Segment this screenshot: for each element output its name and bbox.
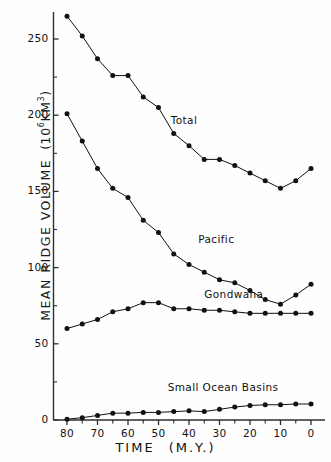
chart-series [65, 111, 314, 307]
series-data-point [80, 139, 85, 144]
chart-series [65, 300, 314, 331]
series-data-point [126, 195, 131, 200]
series-data-point [141, 218, 146, 223]
series-data-point [187, 262, 192, 267]
series-data-point [141, 300, 146, 305]
x-axis-tick-label: 30 [205, 427, 235, 439]
series-data-point [263, 402, 268, 407]
x-axis-title: TIME(M.Y.) [0, 440, 331, 455]
series-data-point [232, 163, 237, 168]
series-data-point [217, 308, 222, 313]
y-axis-unit-close: ) [38, 90, 53, 95]
series-data-point [263, 297, 268, 302]
series-data-point [293, 402, 298, 407]
series-data-point [80, 321, 85, 326]
chart-series [65, 402, 314, 422]
y-axis-tick-label: 200 [4, 108, 49, 120]
series-data-point [110, 411, 115, 416]
series-data-point [248, 171, 253, 176]
series-data-point [202, 409, 207, 414]
series-label-gondwana: Gondwana [204, 288, 263, 300]
y-axis-unit-exponent: 6 [37, 122, 46, 128]
series-data-point [95, 166, 100, 171]
series-data-point [65, 417, 70, 422]
series-label-total: Total [171, 114, 198, 126]
series-data-point [171, 131, 176, 136]
y-axis-tick-label: 100 [4, 261, 49, 273]
series-data-point [141, 94, 146, 99]
y-axis-tick-label: 250 [4, 32, 49, 44]
series-line [67, 16, 311, 188]
series-data-point [110, 73, 115, 78]
series-data-point [156, 300, 161, 305]
series-data-point [65, 326, 70, 331]
x-axis-tick-label: 0 [296, 427, 326, 439]
series-data-point [248, 311, 253, 316]
series-data-point [171, 251, 176, 256]
series-data-point [263, 311, 268, 316]
y-axis-unit-base: (10 [38, 127, 53, 150]
series-data-point [309, 282, 314, 287]
series-data-point [293, 311, 298, 316]
chart-axes [54, 12, 326, 425]
chart-series-group [65, 14, 314, 422]
series-data-point [202, 157, 207, 162]
chart-series [65, 14, 314, 191]
x-axis-title-text: TIME [115, 440, 154, 455]
series-data-point [232, 280, 237, 285]
series-data-point [278, 302, 283, 307]
series-data-point [278, 186, 283, 191]
series-data-point [232, 405, 237, 410]
series-data-point [156, 105, 161, 110]
series-data-point [126, 73, 131, 78]
series-data-point [95, 317, 100, 322]
y-axis-tick-label: 0 [4, 413, 49, 425]
series-data-point [309, 311, 314, 316]
series-data-point [278, 311, 283, 316]
series-data-point [217, 157, 222, 162]
series-label-small-ocean-basins: Small Ocean Basins [168, 381, 279, 393]
series-data-point [110, 186, 115, 191]
series-line [67, 114, 311, 305]
series-data-point [141, 410, 146, 415]
x-axis-tick-label: 80 [52, 427, 82, 439]
series-data-point [95, 56, 100, 61]
x-axis-tick-label: 70 [83, 427, 113, 439]
series-data-point [232, 309, 237, 314]
x-axis-tick-label: 50 [144, 427, 174, 439]
series-data-point [217, 277, 222, 282]
y-axis-title-text: MEAN RIDGE VOLUME [38, 159, 53, 321]
y-axis-unit-exponent2: 3 [37, 96, 46, 102]
y-axis-title: MEAN RIDGE VOLUME(106KM3) [38, 90, 53, 321]
series-data-point [248, 403, 253, 408]
series-data-point [171, 306, 176, 311]
series-data-point [65, 111, 70, 116]
series-label-pacific: Pacific [198, 233, 234, 245]
series-data-point [187, 408, 192, 413]
series-data-point [217, 407, 222, 412]
x-axis-tick-label: 60 [113, 427, 143, 439]
x-axis-title-unit: (M.Y.) [169, 440, 216, 455]
series-data-point [202, 270, 207, 275]
series-data-point [202, 308, 207, 313]
x-axis-tick-label: 10 [266, 427, 296, 439]
y-axis-tick-label: 50 [4, 337, 49, 349]
series-data-point [309, 166, 314, 171]
series-data-point [65, 14, 70, 19]
series-data-point [263, 178, 268, 183]
series-data-point [80, 33, 85, 38]
x-axis-tick-label: 20 [235, 427, 265, 439]
series-data-point [156, 230, 161, 235]
series-data-point [156, 410, 161, 415]
series-data-point [187, 306, 192, 311]
x-axis-tick-label: 40 [174, 427, 204, 439]
series-data-point [293, 293, 298, 298]
series-data-point [80, 415, 85, 420]
series-data-point [309, 402, 314, 407]
series-data-point [110, 309, 115, 314]
series-data-point [126, 306, 131, 311]
y-axis-tick-label: 150 [4, 184, 49, 196]
series-data-point [187, 143, 192, 148]
series-data-point [278, 402, 283, 407]
series-data-point [126, 411, 131, 416]
